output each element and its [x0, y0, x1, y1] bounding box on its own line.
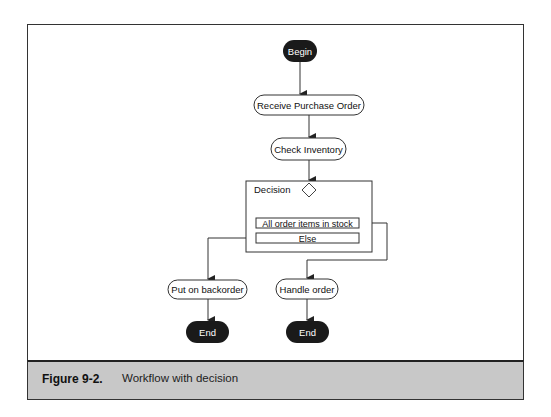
svg-text:Begin: Begin — [288, 46, 312, 57]
svg-text:Handle order: Handle order — [280, 284, 335, 295]
svg-text:Check Inventory: Check Inventory — [274, 144, 343, 155]
decision-label: Decision — [254, 184, 290, 195]
receive-purchase-order-node: Receive Purchase Order — [254, 95, 364, 115]
put-on-backorder-node: Put on backorder — [168, 280, 247, 299]
decision-node: Decision All order items in stock Else — [246, 181, 372, 252]
check-inventory-node: Check Inventory — [271, 138, 346, 160]
workflow-diagram: Begin Receive Purchase Order Check Inven… — [0, 0, 551, 417]
svg-text:End: End — [199, 327, 216, 338]
end-node-left: End — [186, 321, 229, 343]
svg-text:All order items in stock: All order items in stock — [262, 219, 353, 229]
svg-text:End: End — [299, 327, 316, 338]
svg-text:Else: Else — [299, 234, 317, 244]
figure-number: Figure 9-2. — [42, 372, 103, 386]
figure-title: Workflow with decision — [122, 372, 238, 384]
end-node-right: End — [286, 321, 329, 343]
svg-text:Put on backorder: Put on backorder — [171, 284, 243, 295]
begin-node: Begin — [283, 40, 317, 62]
figure-caption: Figure 9-2. Workflow with decision — [27, 360, 524, 400]
svg-text:Receive Purchase Order: Receive Purchase Order — [257, 100, 361, 111]
handle-order-node: Handle order — [276, 279, 338, 299]
